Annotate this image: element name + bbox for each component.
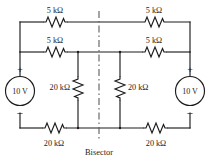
- resistor-bottom-left-label: 20 kΩ: [44, 139, 64, 148]
- resistor-bottom-right-label: 20 kΩ: [146, 139, 166, 148]
- resistor-mid-left-label: 5 kΩ: [47, 36, 63, 45]
- circuit-schematic-canvas: 10 V + – 10 V + – 5 kΩ 5 kΩ 5 kΩ 5 kΩ 20…: [0, 0, 210, 165]
- resistor-mid-left-symbol: [43, 47, 68, 57]
- resistor-vert-left-symbol: [73, 76, 83, 101]
- resistor-bottom-left-symbol: [42, 123, 67, 133]
- resistor-mid-right-label: 5 kΩ: [146, 36, 162, 45]
- circuit-diagram-figure: 10 V + – 10 V + – 5 kΩ 5 kΩ 5 kΩ 5 kΩ 20…: [0, 0, 210, 165]
- voltage-source-left-plus-sign: +: [17, 64, 23, 75]
- node-mid-right-junction: [119, 51, 121, 53]
- resistor-mid-right-symbol: [142, 47, 167, 57]
- resistor-bottom-right-symbol: [143, 123, 168, 133]
- mask-top-right: [142, 14, 167, 30]
- voltage-source-left-value: 10 V: [12, 87, 28, 96]
- resistor-top-left-label: 5 kΩ: [47, 6, 63, 15]
- bisector-label: Bisector: [85, 148, 113, 157]
- node-mid-left-junction: [77, 51, 79, 53]
- voltage-source-left-minus-sign: –: [17, 107, 23, 118]
- resistor-top-right-label: 5 kΩ: [146, 6, 162, 15]
- voltage-source-right-minus-sign: –: [187, 107, 193, 118]
- voltage-source-right-value: 10 V: [182, 87, 198, 96]
- resistor-vert-right-symbol: [115, 76, 125, 101]
- voltage-source-right-plus-sign: +: [187, 64, 193, 75]
- resistor-vert-right-label: 20 kΩ: [128, 83, 148, 92]
- resistor-top-left-symbol: [43, 17, 68, 27]
- resistor-vert-left-label: 20 kΩ: [50, 83, 70, 92]
